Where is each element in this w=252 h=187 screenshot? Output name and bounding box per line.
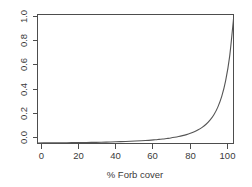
y-tick-label: 0.2 (18, 107, 29, 120)
y-tick-label: 0.4 (18, 83, 29, 96)
x-axis-title: % Forb cover (107, 169, 164, 180)
x-axis-tick-labels: 0 20 40 60 80 100 (39, 150, 236, 161)
plot-area: 0 20 40 60 80 100 0.0 0.2 0.4 0.6 0.8 1.… (0, 0, 252, 187)
y-tick-label: 1.0 (18, 10, 29, 23)
y-tick-label: 0.0 (18, 131, 29, 144)
chart-figure: 0 20 40 60 80 100 0.0 0.2 0.4 0.6 0.8 1.… (0, 0, 252, 187)
y-tick-label: 0.8 (18, 34, 29, 47)
y-axis-ticks (33, 17, 38, 138)
y-tick-label: 0.6 (18, 58, 29, 71)
data-curve-predicted-probability (38, 19, 234, 143)
data-series-group (38, 19, 234, 143)
x-tick-label: 20 (73, 150, 84, 161)
x-tick-label: 0 (39, 150, 44, 161)
y-axis-tick-labels: 0.0 0.2 0.4 0.6 0.8 1.0 (18, 10, 29, 144)
x-tick-label: 100 (220, 150, 236, 161)
plot-box (38, 15, 234, 144)
x-tick-label: 40 (110, 150, 121, 161)
x-tick-label: 80 (185, 150, 196, 161)
x-axis-ticks (42, 144, 228, 149)
x-tick-label: 60 (147, 150, 158, 161)
